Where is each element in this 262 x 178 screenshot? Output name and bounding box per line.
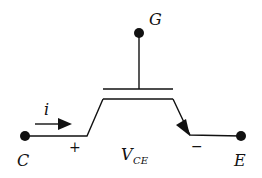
gate-label: G [149, 10, 162, 29]
gate-terminal [134, 28, 144, 38]
voltage-subscript: CE [133, 155, 149, 166]
collector-label: C [17, 151, 29, 170]
minus-sign: − [191, 138, 203, 154]
emitter-terminal [236, 131, 246, 141]
igbt-diagram: G C E i + − V CE [0, 0, 262, 178]
emitter-label: E [233, 151, 246, 170]
emitter-arrow-icon [176, 119, 190, 136]
current-arrow-icon [58, 118, 72, 130]
collector-wire [25, 99, 103, 136]
plus-sign: + [69, 139, 81, 155]
current-label: i [44, 100, 49, 119]
collector-terminal [20, 131, 30, 141]
